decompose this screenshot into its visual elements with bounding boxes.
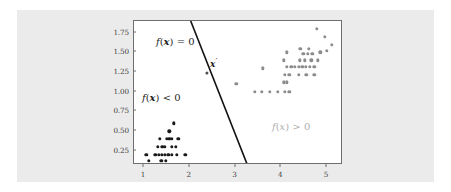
y-tick-mark: [133, 90, 136, 91]
data-point: [206, 71, 209, 74]
data-point: [285, 65, 288, 68]
data-point: [283, 73, 286, 76]
data-point: [268, 90, 271, 93]
data-point: [156, 145, 159, 148]
data-point: [306, 52, 309, 55]
y-tick-label: 0.25: [113, 145, 129, 154]
y-axis-ticks: 0.250.500.751.001.251.501.75: [100, 20, 129, 164]
figure-container: 0.250.500.751.001.251.501.75 12345 f(x) …: [0, 0, 451, 192]
data-point: [311, 52, 314, 55]
boundary-equation-label: f(x) = 0: [156, 36, 195, 47]
y-tick-label: 1.00: [113, 86, 129, 95]
y-tick-label: 1.75: [113, 27, 129, 36]
x-tick-mark: [234, 164, 235, 167]
x-axis-ticks: 12345: [133, 164, 342, 182]
data-point: [158, 137, 161, 140]
data-point: [260, 90, 263, 93]
data-point: [261, 67, 264, 70]
x-tick-mark: [143, 164, 144, 167]
data-point: [299, 47, 302, 50]
positive-label-rel: > 0: [289, 121, 310, 132]
data-point: [303, 59, 306, 62]
x-tick-label: 2: [186, 170, 191, 179]
data-point: [174, 145, 177, 148]
y-tick-mark: [133, 71, 136, 72]
x-tick-label: 1: [141, 170, 146, 179]
data-point: [285, 51, 288, 54]
data-point: [172, 122, 175, 125]
data-point: [298, 59, 301, 62]
data-point: [170, 153, 173, 156]
negative-region-label: f(x) < 0: [142, 92, 181, 103]
data-point: [305, 73, 308, 76]
x-tick-mark: [188, 164, 189, 167]
y-tick-label: 0.50: [113, 126, 129, 135]
data-point: [308, 65, 311, 68]
data-point: [147, 159, 150, 162]
data-point: [312, 73, 315, 76]
negative-label-rel: < 0: [159, 92, 180, 103]
x-tick-mark: [280, 164, 281, 167]
data-point: [288, 73, 291, 76]
y-tick-label: 1.25: [113, 67, 129, 76]
y-tick-mark: [133, 110, 136, 111]
x-tick-label: 4: [278, 170, 283, 179]
data-point: [177, 137, 180, 140]
data-point: [285, 81, 288, 84]
data-point: [164, 159, 167, 162]
y-tick-mark: [133, 51, 136, 52]
data-point: [276, 90, 279, 93]
x-tick-mark: [325, 164, 326, 167]
data-point: [315, 27, 318, 30]
data-point: [253, 90, 256, 93]
y-tick-mark: [133, 130, 136, 131]
data-point: [168, 129, 171, 132]
data-point: [302, 52, 305, 55]
x-tick-label: 3: [232, 170, 237, 179]
data-point: [145, 153, 148, 156]
data-point: [316, 59, 319, 62]
positive-region-label: f(x) > 0: [272, 121, 310, 132]
y-tick-mark: [133, 149, 136, 150]
x-tick-label: 5: [324, 170, 329, 179]
y-tick-label: 0.75: [113, 106, 129, 115]
data-point: [175, 153, 178, 156]
data-point: [288, 90, 291, 93]
query-point-label: x′: [210, 56, 217, 69]
data-point: [318, 51, 321, 54]
data-point: [307, 47, 310, 50]
data-point: [330, 43, 333, 46]
data-point: [325, 49, 328, 52]
data-point: [282, 59, 285, 62]
data-point: [310, 59, 313, 62]
data-point: [297, 73, 300, 76]
y-tick-label: 1.50: [113, 47, 129, 56]
y-tick-mark: [133, 31, 136, 32]
boundary-label-rel: = 0: [173, 36, 194, 47]
data-point: [170, 137, 173, 140]
data-point: [323, 35, 326, 38]
data-point: [283, 90, 286, 93]
data-point: [160, 159, 163, 162]
data-point: [312, 65, 315, 68]
data-point: [184, 153, 187, 156]
query-point-label-prime: ′: [215, 56, 217, 65]
data-point: [163, 145, 166, 148]
data-point: [235, 82, 238, 85]
data-point: [170, 145, 173, 148]
